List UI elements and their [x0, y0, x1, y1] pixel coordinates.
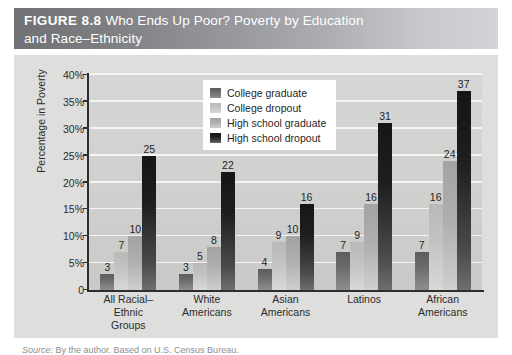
figure-title-bar: FIGURE 8.8 Who Ends Up Poor? Poverty by …	[14, 8, 498, 49]
x-axis-category-label-line: Americans	[168, 306, 247, 319]
y-axis-tick-label: 5%	[69, 257, 84, 269]
bar[interactable]: 22	[221, 172, 235, 290]
y-axis-tick	[83, 181, 88, 183]
y-axis-tick	[83, 100, 88, 102]
bar-value-label: 16	[365, 191, 377, 203]
bar[interactable]: 10	[128, 236, 142, 290]
y-axis-tick	[83, 289, 88, 291]
bar-value-label: 7	[340, 239, 346, 251]
figure-title-line-2: and Race–Ethnicity	[24, 30, 490, 48]
bar[interactable]: 16	[429, 204, 443, 290]
legend-item-label: High school graduate	[227, 117, 326, 129]
legend-item[interactable]: College graduate	[210, 85, 326, 100]
bar-value-label: 22	[222, 159, 234, 171]
x-axis-category-label-line: Latinos	[325, 293, 404, 306]
figure-container: FIGURE 8.8 Who Ends Up Poor? Poverty by …	[0, 0, 512, 355]
bar-value-label: 16	[430, 191, 442, 203]
bar-group: 791631	[336, 75, 392, 290]
bar[interactable]: 7	[336, 252, 350, 290]
y-axis-tick	[83, 262, 88, 264]
bar-value-label: 37	[458, 78, 470, 90]
bar[interactable]: 7	[415, 252, 429, 290]
bar-value-label: 5	[197, 250, 203, 262]
y-axis-tick-label: 15%	[63, 203, 84, 215]
legend-item[interactable]: High school graduate	[210, 115, 326, 130]
bar-value-label: 9	[354, 229, 360, 241]
legend-swatch-icon	[210, 88, 221, 98]
bar-value-label: 24	[444, 148, 456, 160]
bar[interactable]: 8	[207, 247, 221, 290]
bar-value-label: 10	[129, 223, 141, 235]
bar-group: 7162437	[415, 75, 471, 290]
y-axis-tick-label: 35%	[63, 96, 84, 108]
bar-value-label: 25	[143, 143, 155, 155]
bar-value-label: 7	[118, 239, 124, 251]
x-axis-category-label-line: White	[168, 293, 247, 306]
bar[interactable]: 25	[142, 156, 156, 290]
source-caption: Source: By the author. Based on U.S. Cen…	[22, 345, 492, 355]
y-axis-tick-label: 20%	[63, 177, 84, 189]
y-axis-line	[87, 73, 89, 292]
x-axis-category-label-line: Americans	[246, 306, 325, 319]
chart-legend: College graduateCollege dropoutHigh scho…	[203, 80, 336, 150]
y-axis-tick-labels: 05%10%15%20%25%30%35%40%	[36, 75, 84, 290]
x-axis-category-labels: All Racial–EthnicGroupsWhiteAmericansAsi…	[89, 293, 482, 333]
y-axis-tick-label: 40%	[63, 69, 84, 81]
x-axis-line	[87, 290, 484, 292]
y-axis-tick	[83, 74, 88, 76]
x-axis-category-label-line: Americans	[403, 306, 482, 319]
figure-title-line-1: FIGURE 8.8 Who Ends Up Poor? Poverty by …	[24, 12, 490, 30]
x-axis-category-label: Latinos	[325, 293, 404, 306]
bar-value-label: 3	[183, 261, 189, 273]
legend-swatch-icon	[210, 133, 221, 143]
x-axis-category-label-line: African	[403, 293, 482, 306]
bar-value-label: 31	[379, 110, 391, 122]
y-axis-tick	[83, 208, 88, 210]
bar[interactable]: 7	[114, 252, 128, 290]
bar[interactable]: 3	[179, 274, 193, 290]
bar[interactable]: 4	[258, 269, 272, 291]
bar-value-label: 10	[287, 223, 299, 235]
legend-item-label: College dropout	[227, 102, 301, 114]
bar[interactable]: 5	[193, 263, 207, 290]
bar[interactable]: 37	[457, 91, 471, 290]
source-label: Source:	[22, 345, 53, 355]
bar[interactable]: 9	[272, 242, 286, 290]
y-axis-tick-label: 0	[78, 284, 84, 296]
y-axis-tick	[83, 127, 88, 129]
bar[interactable]: 3	[100, 274, 114, 290]
bar-value-label: 16	[301, 191, 313, 203]
bar[interactable]: 24	[443, 161, 457, 290]
legend-item[interactable]: College dropout	[210, 100, 326, 115]
x-axis-category-label-line: All Racial–Ethnic	[89, 293, 168, 319]
bar[interactable]: 10	[286, 236, 300, 290]
y-axis-tick-label: 25%	[63, 150, 84, 162]
legend-item[interactable]: High school dropout	[210, 130, 326, 145]
legend-swatch-icon	[210, 118, 221, 128]
chart-panel: Percentage in Poverty 05%10%15%20%25%30%…	[14, 55, 498, 338]
x-axis-category-label: All Racial–EthnicGroups	[89, 293, 168, 332]
y-axis-tick-label: 30%	[63, 123, 84, 135]
bar-value-label: 3	[104, 261, 110, 273]
x-axis-category-label-line: Groups	[89, 319, 168, 332]
y-axis-tick-label: 10%	[63, 230, 84, 242]
source-text: By the author. Based on U.S. Census Bure…	[53, 345, 239, 355]
bar-value-label: 7	[419, 239, 425, 251]
y-axis-tick	[83, 154, 88, 156]
y-axis-tick	[83, 235, 88, 237]
legend-item-label: High school dropout	[227, 132, 320, 144]
bar[interactable]: 9	[350, 242, 364, 290]
figure-title-text: Who Ends Up Poor? Poverty by Education	[105, 13, 363, 28]
figure-number-label: FIGURE 8.8	[24, 13, 102, 28]
x-axis-category-label: AsianAmericans	[246, 293, 325, 319]
bar-value-label: 4	[262, 256, 268, 268]
x-axis-category-label-line: Asian	[246, 293, 325, 306]
x-axis-category-label: AfricanAmericans	[403, 293, 482, 319]
bar[interactable]: 16	[364, 204, 378, 290]
bar-value-label: 9	[276, 229, 282, 241]
bar-value-label: 8	[211, 234, 217, 246]
bar[interactable]: 31	[378, 123, 392, 290]
x-axis-category-label: WhiteAmericans	[168, 293, 247, 319]
legend-swatch-icon	[210, 103, 221, 113]
bar[interactable]: 16	[300, 204, 314, 290]
